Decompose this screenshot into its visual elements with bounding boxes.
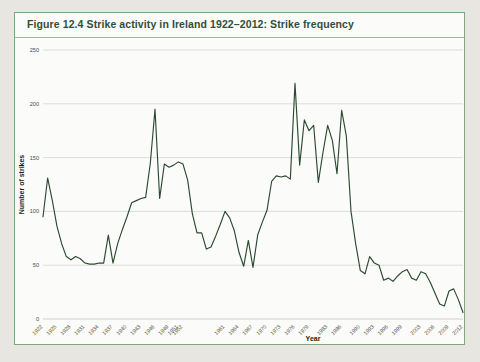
- x-axis-tick: 2012: [451, 323, 464, 336]
- x-axis-tick-label: 1967: [241, 323, 254, 336]
- x-axis-tick-label: 2012: [451, 323, 464, 336]
- x-axis-tick-label: 1937: [101, 323, 114, 336]
- x-axis-title: Year: [306, 335, 321, 342]
- x-axis-tick: 1970: [255, 323, 268, 336]
- x-axis-tick: 1964: [227, 323, 240, 336]
- x-axis-tick-label: 1986: [330, 323, 343, 336]
- x-axis-tick: 1943: [129, 323, 142, 336]
- data-series-line: [43, 83, 463, 312]
- x-axis-tick: 1967: [241, 323, 254, 336]
- x-axis-tick: 1922: [31, 323, 44, 336]
- x-axis-tick-label: 1999: [390, 323, 403, 336]
- line-chart: 0501001502002501922192519281931193419371…: [15, 38, 464, 344]
- x-axis-tick-label: 1940: [115, 323, 128, 336]
- x-axis-tick-label: 1996: [376, 323, 389, 336]
- x-axis-tick: 1990: [348, 323, 361, 336]
- x-axis-tick-label: 1993: [362, 323, 375, 336]
- x-axis-tick-label: 1928: [59, 323, 72, 336]
- x-axis-tick-label: 2009: [437, 323, 450, 336]
- y-axis-tick-label: 50: [33, 262, 39, 268]
- x-axis-tick: 1993: [362, 323, 375, 336]
- page-title: Figure 12.4 Strike activity in Ireland 1…: [27, 18, 354, 30]
- x-axis-tick-label: 1934: [87, 323, 100, 336]
- x-axis-tick: 1976: [283, 323, 296, 336]
- y-axis-tick-label: 200: [30, 101, 39, 107]
- x-axis-tick-label: 1943: [129, 323, 142, 336]
- x-axis-tick: 1931: [73, 323, 86, 336]
- x-axis-tick: 1925: [45, 323, 58, 336]
- x-axis-tick: 1996: [376, 323, 389, 336]
- y-axis-tick-label: 0: [36, 316, 39, 322]
- x-axis-tick: 1973: [269, 323, 282, 336]
- x-axis-tick: 1928: [59, 323, 72, 336]
- x-axis-tick-label: 1990: [348, 323, 361, 336]
- y-axis-tick-label: 150: [30, 155, 39, 161]
- x-axis-tick-label: 1922: [31, 323, 44, 336]
- x-axis-tick-label: 1931: [73, 323, 86, 336]
- figure-frame: Figure 12.4 Strike activity in Ireland 1…: [14, 12, 465, 345]
- x-axis-tick-label: 1970: [255, 323, 268, 336]
- x-axis-tick: 1986: [330, 323, 343, 336]
- y-axis-tick-label: 100: [30, 208, 39, 214]
- x-axis-tick: 1999: [390, 323, 403, 336]
- x-axis-tick-label: 1961: [213, 323, 226, 336]
- x-axis-tick: 2006: [423, 323, 436, 336]
- x-axis-tick: 1961: [213, 323, 226, 336]
- x-axis-tick: 1934: [87, 323, 100, 336]
- x-axis-tick-label: 1964: [227, 323, 240, 336]
- y-axis-tick-label: 250: [30, 47, 39, 53]
- y-axis-title: Number of strikes: [18, 155, 25, 215]
- x-axis-tick: 2003: [409, 323, 422, 336]
- x-axis-tick: 1946: [143, 323, 156, 336]
- x-axis-tick-label: 2003: [409, 323, 422, 336]
- chart-plot-area: 0501001502002501922192519281931193419371…: [15, 38, 464, 344]
- x-axis-tick-label: 1925: [45, 323, 58, 336]
- x-axis-tick-label: 1946: [143, 323, 156, 336]
- x-axis-tick: 1940: [115, 323, 128, 336]
- figure-title-bar: Figure 12.4 Strike activity in Ireland 1…: [15, 13, 464, 38]
- x-axis-tick: 2009: [437, 323, 450, 336]
- x-axis-tick: 1937: [101, 323, 114, 336]
- x-axis-tick-label: 2006: [423, 323, 436, 336]
- x-axis-tick-label: 1976: [283, 323, 296, 336]
- x-axis-tick-label: 1973: [269, 323, 282, 336]
